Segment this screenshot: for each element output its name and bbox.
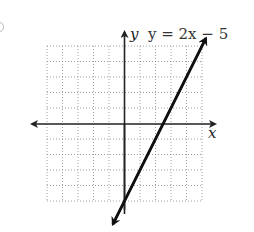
line-series: [113, 38, 206, 224]
x-axis-label: x: [208, 124, 217, 142]
y-axis-label: y: [129, 25, 139, 43]
equation-label: y = 2x − 5: [147, 25, 228, 43]
line-y-equals-2x-minus-5: [113, 38, 206, 224]
coordinate-plane: y y = 2x − 5 x: [0, 0, 254, 232]
